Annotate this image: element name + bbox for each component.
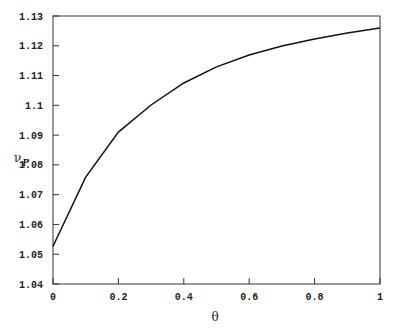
- y-tick-label: 1.11: [19, 71, 43, 82]
- x-tick-label: 0.2: [109, 292, 127, 303]
- y-tick-label: 1.07: [19, 190, 43, 201]
- plot-frame: [53, 16, 380, 284]
- x-tick-label: 0: [50, 292, 56, 303]
- y-tick-label: 1.12: [19, 41, 43, 52]
- x-tick-label: 0.8: [306, 292, 324, 303]
- x-tick-label: 0.6: [240, 292, 258, 303]
- data-line: [53, 28, 380, 246]
- x-axis-label: θ: [211, 310, 218, 324]
- chart: 1.041.051.061.071.081.091.11.111.121.13 …: [0, 0, 395, 333]
- y-tick-label: 1.04: [19, 280, 43, 291]
- y-tick-label: 1.06: [19, 220, 43, 231]
- y-axis-label: νP: [14, 151, 29, 168]
- y-tick-label: 1.05: [19, 250, 43, 261]
- x-tick-label: 1: [377, 292, 383, 303]
- x-tick-label: 0.4: [175, 292, 193, 303]
- x-axis-ticks: 00.20.40.60.81: [50, 278, 383, 303]
- y-tick-label: 1.1: [25, 101, 43, 112]
- y-tick-label: 1.13: [19, 12, 43, 23]
- y-tick-label: 1.09: [19, 131, 43, 142]
